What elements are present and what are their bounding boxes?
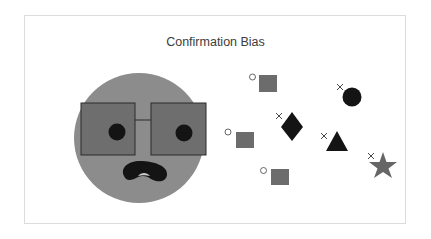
accept-circle-marker [261, 168, 267, 174]
person-face [74, 73, 206, 203]
evidence-item-star [368, 152, 397, 178]
diagram-canvas [0, 0, 431, 239]
accept-circle-marker [250, 74, 256, 80]
evidence-item-square-1 [250, 74, 278, 92]
square-shape [259, 75, 277, 92]
square-shape [236, 132, 254, 148]
accept-circle-marker [225, 129, 231, 135]
reject-cross-marker [368, 153, 374, 159]
evidence-item-diamond [276, 112, 303, 141]
star-shape [369, 152, 397, 178]
right-pupil [176, 125, 193, 142]
left-pupil [109, 124, 126, 141]
circle-shape [343, 88, 362, 107]
evidence-item-circle [337, 84, 362, 107]
triangle-shape [326, 131, 348, 151]
left-lens [81, 103, 135, 155]
square-shape [271, 169, 289, 185]
reject-cross-marker [321, 133, 327, 139]
evidence-item-square-2 [225, 129, 254, 148]
reject-cross-marker [337, 84, 343, 90]
diamond-shape [281, 112, 303, 141]
evidence-item-triangle [321, 131, 348, 151]
evidence-item-square-3 [261, 168, 290, 186]
reject-cross-marker [276, 113, 282, 119]
